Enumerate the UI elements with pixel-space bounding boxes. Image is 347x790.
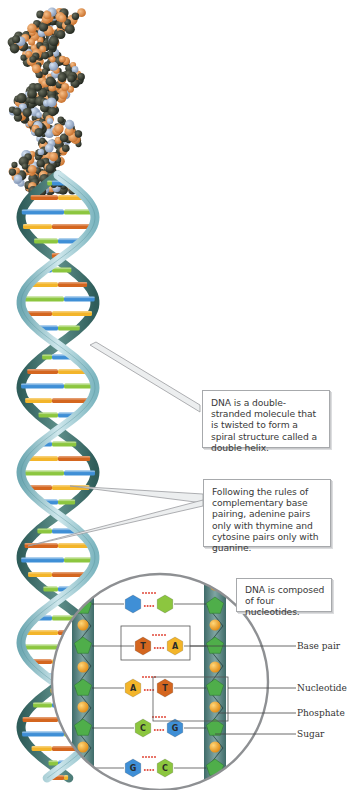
svg-text:G: G (172, 724, 179, 733)
svg-text:C: C (162, 764, 168, 773)
svg-text:G: G (130, 764, 137, 773)
svg-text:T: T (162, 684, 168, 693)
label-sugar: Sugar (297, 729, 324, 739)
svg-text:A: A (172, 642, 179, 651)
callout-base-pairing: Following the rules of complementary bas… (203, 479, 331, 547)
space-filling-model (8, 8, 86, 196)
svg-text:T: T (140, 642, 146, 651)
svg-text:C: C (140, 724, 146, 733)
label-nucleotide: Nucleotide (297, 683, 347, 693)
svg-text:A: A (130, 684, 137, 693)
callout-double-helix: DNA is a double-stranded molecule that i… (202, 390, 330, 448)
label-base-pair: Base pair (297, 641, 340, 651)
label-phosphate: Phosphate (297, 708, 345, 718)
callout-nucleotides: DNA is composed of four nucleotides. (236, 578, 332, 612)
